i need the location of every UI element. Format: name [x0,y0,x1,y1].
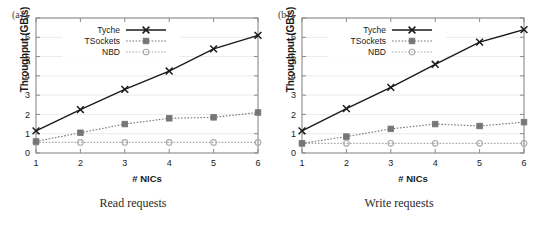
data-point-tsockets-5 [255,110,261,116]
plot-area-b: Throughput (GB/s) 01234567123456# NICsTy… [266,10,532,185]
y-tick-label-6: 6 [291,32,296,42]
x-tick-label-4: 4 [433,158,438,168]
legend-label-nbd: NBD [368,47,386,57]
y-tick-label-5: 5 [25,52,30,62]
y-tick-label-4: 4 [25,71,30,81]
x-tick-label-6: 6 [255,158,260,168]
x-tick-label-6: 6 [521,158,526,168]
panel-a: (a) Throughput (GB/s) 01234567123456# NI… [0,0,266,225]
legend-label-nbd: NBD [102,47,120,57]
x-tick-label-4: 4 [167,158,172,168]
data-point-tsockets-4 [477,123,483,129]
series-nbd [33,140,261,146]
legend-label-tyche: Tyche [363,25,386,35]
y-tick-label-1: 1 [25,129,30,139]
chart-svg-b: 01234567123456# NICsTycheTSocketsNBD [266,10,532,185]
legend: TycheTSocketsNBD [328,22,446,58]
y-tick-label-7: 7 [291,13,296,23]
legend-background [328,22,446,58]
y-tick-label-0: 0 [291,148,296,158]
x-tick-label-5: 5 [211,158,216,168]
legend-background [62,22,180,58]
data-point-tyche-2 [121,86,128,93]
data-point-tyche-3 [166,68,173,75]
data-point-tsockets-0 [299,141,305,147]
data-point-tsockets-4 [211,115,217,121]
y-tick-label-3: 3 [291,90,296,100]
data-point-tsockets-legend [409,38,415,44]
series-line-tsockets [36,113,258,142]
plot-area-a: Throughput (GB/s) 01234567123456# NICsTy… [0,10,266,185]
x-tick-label-3: 3 [122,158,127,168]
x-tick-label-2: 2 [78,158,83,168]
series-tsockets [33,110,261,145]
y-tick-label-2: 2 [25,110,30,120]
series-nbd [299,141,527,147]
x-tick-label-2: 2 [344,158,349,168]
y-tick-label-0: 0 [25,148,30,158]
data-point-tsockets-2 [388,126,394,132]
data-point-tsockets-1 [344,134,350,140]
legend-label-tsockets: TSockets [85,36,120,46]
series-tsockets [299,119,527,146]
legend-label-tsockets: TSockets [351,36,386,46]
y-tick-label-3: 3 [25,90,30,100]
data-point-tsockets-5 [521,119,527,125]
figure-two-panel-throughput: (a) Throughput (GB/s) 01234567123456# NI… [0,0,533,225]
data-point-tsockets-0 [33,139,39,145]
data-point-tyche-1 [77,106,84,113]
data-point-tsockets-1 [78,130,84,136]
panel-b: (b) Throughput (GB/s) 01234567123456# NI… [266,0,532,225]
x-tick-label-5: 5 [477,158,482,168]
x-tick-label-1: 1 [33,158,38,168]
caption-b: Write requests [266,196,532,211]
legend: TycheTSocketsNBD [62,22,180,58]
data-point-tyche-2 [387,84,394,91]
chart-svg-a: 01234567123456# NICsTycheTSocketsNBD [0,10,266,185]
y-tick-label-7: 7 [25,13,30,23]
y-tick-label-6: 6 [25,32,30,42]
x-tick-label-1: 1 [299,158,304,168]
caption-a: Read requests [0,196,266,211]
legend-label-tyche: Tyche [97,25,120,35]
x-axis-title: # NICs [398,173,428,184]
x-tick-label-3: 3 [388,158,393,168]
data-point-tsockets-2 [122,121,128,127]
data-point-tsockets-3 [166,115,172,121]
y-tick-label-2: 2 [291,110,296,120]
data-point-tyche-3 [432,61,439,68]
y-tick-label-5: 5 [291,52,296,62]
series-line-tsockets [302,122,524,143]
y-tick-label-1: 1 [291,129,296,139]
data-point-tyche-1 [343,105,350,112]
x-axis-title: # NICs [132,173,162,184]
y-tick-label-4: 4 [291,71,296,81]
data-point-tsockets-legend [143,38,149,44]
data-point-tsockets-3 [432,121,438,127]
